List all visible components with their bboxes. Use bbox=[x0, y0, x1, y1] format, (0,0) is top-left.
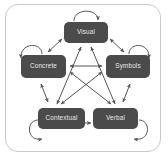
edge-symbols-verbal bbox=[123, 84, 130, 102]
node-verbal[interactable]: Verbal bbox=[93, 108, 138, 129]
node-contextual[interactable]: Contextual bbox=[38, 108, 85, 129]
edge-symbols-contextual bbox=[61, 72, 102, 104]
self-loop-visual bbox=[74, 11, 98, 21]
edge-concrete-visual bbox=[48, 39, 62, 52]
edge-visual-symbols bbox=[110, 39, 124, 52]
node-verbal-label: Verbal bbox=[106, 115, 125, 121]
node-concrete[interactable]: Concrete bbox=[21, 55, 66, 78]
node-visual[interactable]: Visual bbox=[64, 22, 108, 43]
node-symbols-label: Symbols bbox=[115, 63, 141, 69]
node-visual-label: Visual bbox=[77, 29, 95, 35]
node-concrete-label: Concrete bbox=[30, 63, 57, 69]
node-contextual-label: Contextual bbox=[45, 115, 77, 121]
node-symbols[interactable]: Symbols bbox=[106, 55, 150, 78]
diagram-canvas: Visual Concrete Symbols Contextual Verba… bbox=[0, 0, 168, 160]
edge-concrete-contextual bbox=[41, 84, 48, 102]
edge-concrete-verbal bbox=[70, 72, 111, 104]
